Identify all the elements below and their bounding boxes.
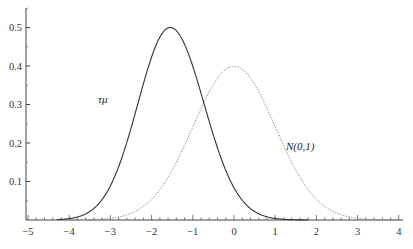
- tau-mu-curve: [57, 28, 308, 220]
- y-tick-label: 0.1: [9, 176, 22, 187]
- x-tick-label: −3: [105, 226, 116, 237]
- normal-label: N(0,1): [285, 140, 315, 153]
- x-tick-label: −5: [22, 226, 33, 237]
- x-tick-label: −2: [146, 226, 157, 237]
- tau-mu-label: τμ: [98, 93, 108, 105]
- curve-labels: τμ N(0,1): [98, 93, 315, 153]
- x-tick-label: 1: [273, 226, 278, 237]
- x-tick-label: 4: [396, 226, 402, 237]
- curves: [57, 28, 399, 220]
- x-tick-label: −4: [64, 226, 76, 237]
- normal-curve: [90, 66, 399, 220]
- y-tick-label: 0.2: [9, 138, 22, 149]
- y-tick-label: 0.3: [9, 99, 22, 110]
- x-tick-label: 0: [231, 226, 236, 237]
- x-tick-label: 3: [355, 226, 360, 237]
- y-tick-label: 0.4: [9, 61, 23, 72]
- x-tick-label: 2: [314, 226, 319, 237]
- density-chart: 0.10.20.30.40.5−5−4−3−2−101234 τμ N(0,1): [0, 0, 413, 249]
- axes: 0.10.20.30.40.5−5−4−3−2−101234: [9, 8, 403, 237]
- y-tick-label: 0.5: [9, 22, 22, 33]
- x-tick-label: −1: [187, 226, 198, 237]
